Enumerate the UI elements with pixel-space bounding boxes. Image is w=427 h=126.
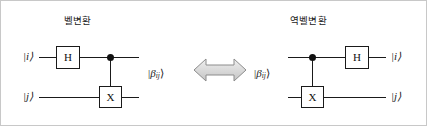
left-panel-title: 벨변환: [64, 13, 92, 27]
left-hadamard-gate[interactable]: H: [56, 46, 80, 69]
right-output-ket-j: |j⟩: [391, 90, 401, 103]
left-beta-subscript: ij: [156, 71, 160, 80]
right-input-bell-state: |βij⟩: [254, 67, 270, 80]
right-control-dot[interactable]: [309, 54, 316, 61]
right-pauli-x-gate[interactable]: X: [301, 86, 324, 108]
left-wire-top: [39, 57, 139, 58]
left-pauli-x-gate[interactable]: X: [99, 86, 122, 108]
right-beta-subscript: ij: [262, 71, 266, 80]
right-wire-top: [288, 57, 386, 58]
double-headed-arrow-icon: [193, 57, 247, 83]
left-input-ket-i: |i⟩: [23, 50, 33, 63]
right-panel-title: 역벨변환: [290, 13, 327, 27]
quantum-circuit-figure: 벨변환 역벨변환 |i⟩ |j⟩ H X |βij⟩: [0, 0, 427, 126]
left-wire-bottom: [39, 97, 139, 98]
left-control-dot[interactable]: [107, 54, 114, 61]
left-output-bell-state: |βij⟩: [148, 67, 164, 80]
left-input-ket-j: |j⟩: [23, 90, 33, 103]
right-hadamard-gate[interactable]: H: [345, 46, 369, 69]
right-output-ket-i: |i⟩: [391, 50, 401, 63]
